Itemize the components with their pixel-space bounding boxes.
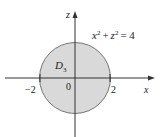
eq-plus: + — [102, 29, 108, 41]
tick-label-neg: −2 — [25, 84, 36, 95]
z-axis-arrow-icon — [73, 11, 78, 18]
eq-equals: = 4 — [120, 29, 135, 41]
tick-label-pos: 2 — [111, 84, 116, 95]
region-subscript: 3 — [63, 66, 67, 74]
x-axis-arrow-icon — [148, 76, 155, 81]
equation: x2+z2= 4 — [91, 29, 135, 41]
z-axis-label: z — [65, 9, 70, 20]
eq-x-exp: 2 — [97, 29, 101, 37]
diagram-canvas: z x x2+z2= 4 D3 −2 0 2 — [0, 0, 162, 137]
eq-z-exp: 2 — [115, 29, 119, 37]
tick-label-origin: 0 — [66, 81, 71, 92]
x-axis-label: x — [143, 84, 149, 95]
